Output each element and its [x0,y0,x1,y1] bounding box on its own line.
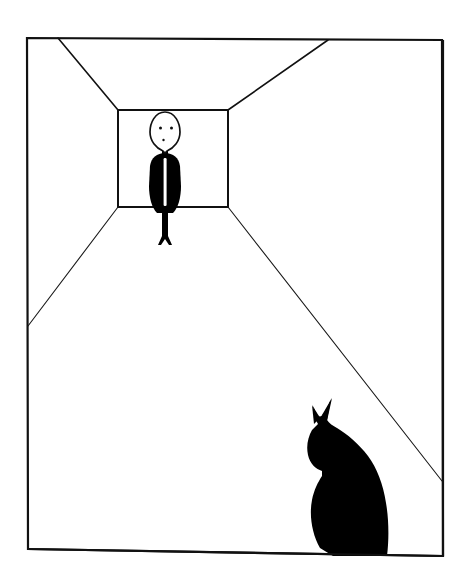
nose-dot [162,139,164,141]
paper-background [0,0,469,583]
white-shirt-placket [164,158,167,206]
eye-left [159,127,162,130]
illustration-canvas: Man in a doorway watched by a cat pen-an… [0,0,469,583]
eye-right [170,127,173,130]
line-drawing-scene [0,0,469,583]
